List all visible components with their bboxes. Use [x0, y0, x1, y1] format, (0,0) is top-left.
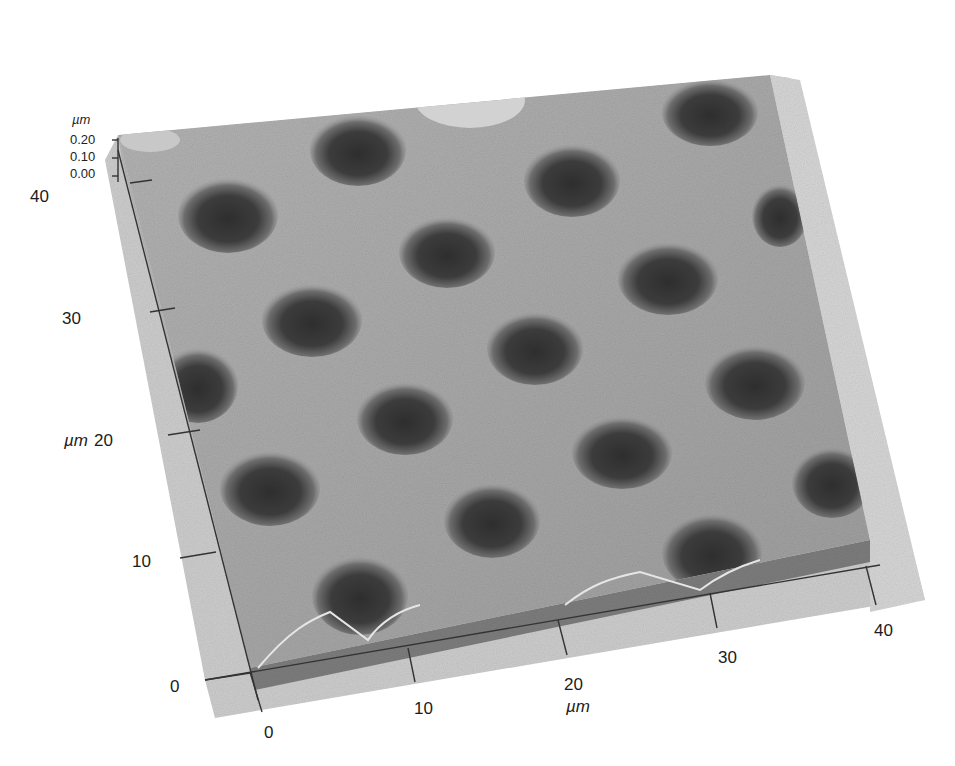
- surface-plot: [0, 0, 955, 766]
- y-tick-0: 0: [170, 678, 179, 695]
- z-tick-0.20: 0.20: [70, 133, 95, 146]
- y-tick-30: 30: [62, 310, 81, 327]
- x-tick-20: 20: [564, 676, 583, 693]
- z-axis-unit: µm: [72, 113, 90, 126]
- x-tick-30: 30: [718, 649, 737, 666]
- x-tick-10: 10: [414, 700, 433, 717]
- y-tick-20: 20: [94, 432, 113, 449]
- x-tick-0: 0: [264, 724, 273, 741]
- z-tick-0.10: 0.10: [70, 150, 95, 163]
- y-tick-40: 40: [30, 188, 49, 205]
- x-tick-40: 40: [874, 622, 893, 639]
- x-axis-unit: µm: [566, 698, 590, 715]
- afm-surface-chart: µm 0.20 0.10 0.00 40 30 µm 20 10 0 0 10 …: [0, 0, 955, 766]
- y-tick-10: 10: [132, 553, 151, 570]
- z-tick-0.00: 0.00: [70, 167, 95, 180]
- y-axis-unit: µm: [64, 432, 88, 449]
